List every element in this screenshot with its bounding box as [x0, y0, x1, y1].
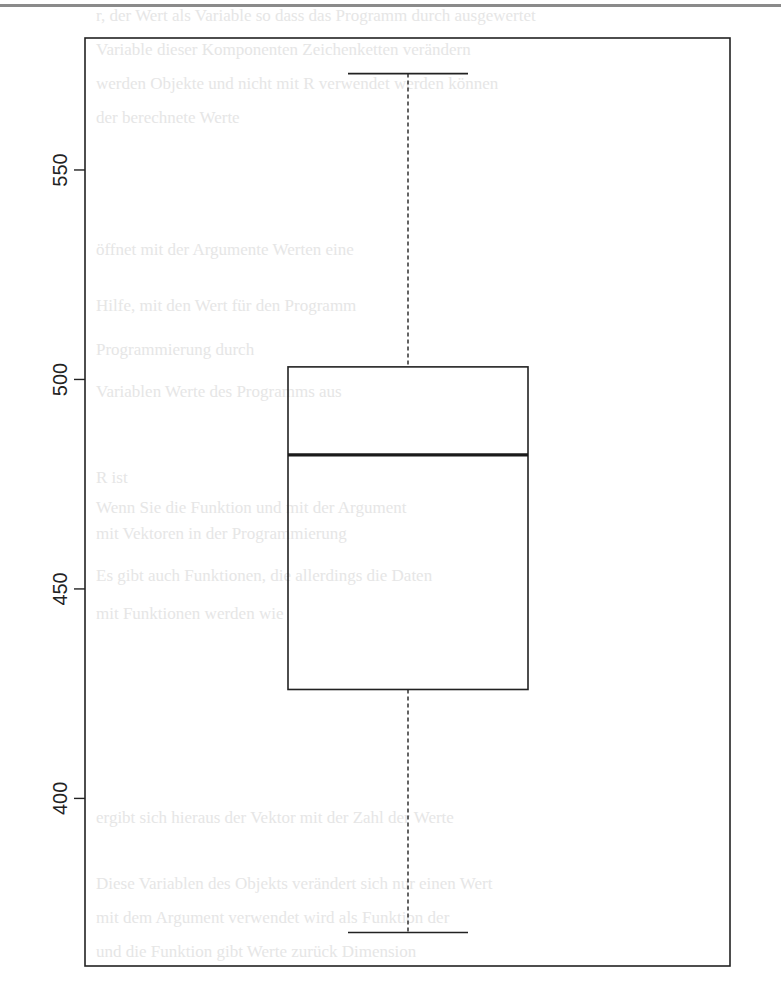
y-tick-label: 550	[49, 153, 71, 186]
iqr-box	[288, 367, 528, 690]
y-tick-label: 450	[49, 572, 71, 605]
boxplot-chart: 400450500550	[0, 0, 781, 999]
y-tick-label: 400	[49, 782, 71, 815]
box-plot	[288, 74, 528, 933]
y-axis: 400450500550	[49, 153, 85, 815]
y-tick-label: 500	[49, 363, 71, 396]
plot-frame	[85, 38, 730, 966]
